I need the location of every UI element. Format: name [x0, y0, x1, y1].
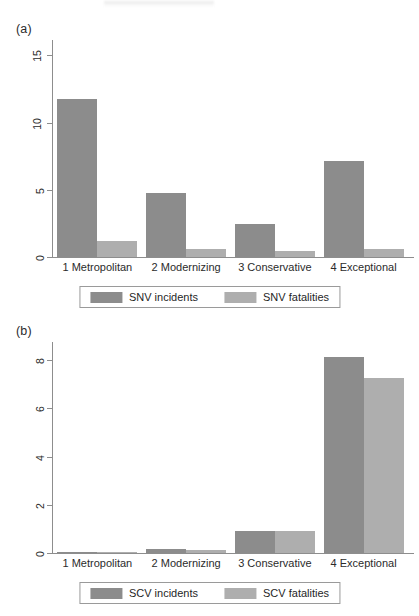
- panel-b-legend-swatch-incidents: [90, 588, 122, 599]
- panel-b-ytick-4: 4: [47, 457, 52, 458]
- panel-a-legend-item-fatalities[interactable]: SNV fatalities: [224, 291, 329, 303]
- panel-a-bar-incidents-modernizing[interactable]: [146, 193, 186, 257]
- panel-a-bar-incidents-conservative[interactable]: [235, 224, 275, 257]
- panel-a-bar-incidents-exceptional[interactable]: [324, 161, 364, 257]
- panel-a-legend-label-fatalities: SNV fatalities: [263, 291, 329, 303]
- panel-b-bar-incidents-conservative[interactable]: [235, 531, 275, 553]
- panel-a-group-modernizing: [142, 40, 231, 257]
- panel-a-xlabel-modernizing: 2 Modernizing: [142, 261, 231, 273]
- panel-a-ytick-5: 5: [47, 190, 52, 191]
- panel-b-bars: [53, 342, 408, 553]
- panel-b-group-exceptional: [319, 342, 408, 553]
- panel-b-bar-incidents-exceptional[interactable]: [324, 357, 364, 553]
- panel-a-ytick-10: 10: [47, 123, 52, 124]
- panel-b-plot-area: 0 2 4 6 8: [52, 342, 408, 554]
- panel-b-legend-item-incidents[interactable]: SCV incidents: [90, 587, 198, 599]
- panel-a-ytick-label-15: 15: [31, 50, 43, 62]
- panel-a-legend: SNV incidents SNV fatalities: [79, 286, 340, 308]
- panel-b-ytick-label-0: 0: [34, 551, 46, 557]
- panel-a-bar-incidents-metropolitan[interactable]: [57, 99, 97, 257]
- panel-a-legend-label-incidents: SNV incidents: [129, 291, 198, 303]
- panel-b: (b) 0 2 4 6 8: [0, 316, 419, 616]
- panel-b-legend-swatch-fatalities: [224, 588, 256, 599]
- panel-a-legend-swatch-incidents: [90, 292, 122, 303]
- panel-b-bar-incidents-modernizing[interactable]: [146, 549, 186, 553]
- panel-b-legend-label-incidents: SCV incidents: [129, 587, 198, 599]
- panel-b-xlabel-exceptional: 4 Exceptional: [319, 557, 408, 569]
- panel-a-legend-swatch-fatalities: [224, 292, 256, 303]
- panel-b-group-metropolitan: [53, 342, 142, 553]
- panel-b-ytick-8: 8: [47, 360, 52, 361]
- panel-a-ytick-label-5: 5: [34, 188, 46, 194]
- panel-b-x-axis: [52, 553, 414, 554]
- panel-b-x-labels: 1 Metropolitan 2 Modernizing 3 Conservat…: [53, 557, 408, 569]
- panel-a-x-labels: 1 Metropolitan 2 Modernizing 3 Conservat…: [53, 261, 408, 273]
- panel-b-bar-incidents-metropolitan[interactable]: [57, 552, 97, 553]
- panel-b-ytick-label-8: 8: [34, 358, 46, 364]
- panel-a-x-axis: [52, 257, 414, 258]
- panel-b-ytick-6: 6: [47, 408, 52, 409]
- figure-container: (a) 0 5 10 15: [0, 0, 419, 616]
- panel-a-ytick-15: 15: [47, 55, 52, 56]
- panel-a: (a) 0 5 10 15: [0, 14, 419, 314]
- panel-a-group-metropolitan: [53, 40, 142, 257]
- panel-b-legend: SCV incidents SCV fatalities: [79, 582, 340, 604]
- panel-b-ytick-label-4: 4: [34, 455, 46, 461]
- panel-a-legend-item-incidents[interactable]: SNV incidents: [90, 291, 198, 303]
- cropped-header-remnant: [104, 1, 214, 7]
- panel-a-xlabel-exceptional: 4 Exceptional: [319, 261, 408, 273]
- panel-b-bar-fatalities-conservative[interactable]: [275, 531, 315, 553]
- panel-a-bar-fatalities-exceptional[interactable]: [364, 249, 404, 257]
- panel-a-bar-fatalities-modernizing[interactable]: [186, 249, 226, 257]
- panel-b-ytick-label-6: 6: [34, 406, 46, 412]
- panel-a-tag: (a): [16, 22, 32, 36]
- panel-a-bars: [53, 40, 408, 257]
- panel-b-ytick-label-2: 2: [34, 503, 46, 509]
- panel-b-ytick-0: 0: [47, 553, 52, 554]
- panel-a-ytick-label-0: 0: [34, 255, 46, 261]
- panel-b-ytick-2: 2: [47, 505, 52, 506]
- panel-b-tag: (b): [16, 324, 32, 338]
- panel-b-legend-item-fatalities[interactable]: SCV fatalities: [224, 587, 329, 599]
- panel-b-bar-fatalities-exceptional[interactable]: [364, 378, 404, 553]
- panel-a-bar-fatalities-metropolitan[interactable]: [97, 241, 137, 257]
- panel-a-ytick-label-10: 10: [31, 118, 43, 130]
- panel-b-xlabel-metropolitan: 1 Metropolitan: [53, 557, 142, 569]
- panel-b-group-conservative: [231, 342, 320, 553]
- panel-a-xlabel-metropolitan: 1 Metropolitan: [53, 261, 142, 273]
- panel-a-group-conservative: [231, 40, 320, 257]
- panel-a-group-exceptional: [319, 40, 408, 257]
- panel-a-xlabel-conservative: 3 Conservative: [231, 261, 320, 273]
- panel-b-group-modernizing: [142, 342, 231, 553]
- panel-a-ytick-0: 0: [47, 257, 52, 258]
- panel-a-plot-area: 0 5 10 15: [52, 40, 408, 258]
- panel-b-bar-fatalities-metropolitan[interactable]: [97, 552, 137, 553]
- panel-b-xlabel-modernizing: 2 Modernizing: [142, 557, 231, 569]
- panel-a-bar-fatalities-conservative[interactable]: [275, 251, 315, 257]
- panel-b-xlabel-conservative: 3 Conservative: [231, 557, 320, 569]
- panel-b-legend-label-fatalities: SCV fatalities: [263, 587, 329, 599]
- panel-b-bar-fatalities-modernizing[interactable]: [186, 550, 226, 553]
